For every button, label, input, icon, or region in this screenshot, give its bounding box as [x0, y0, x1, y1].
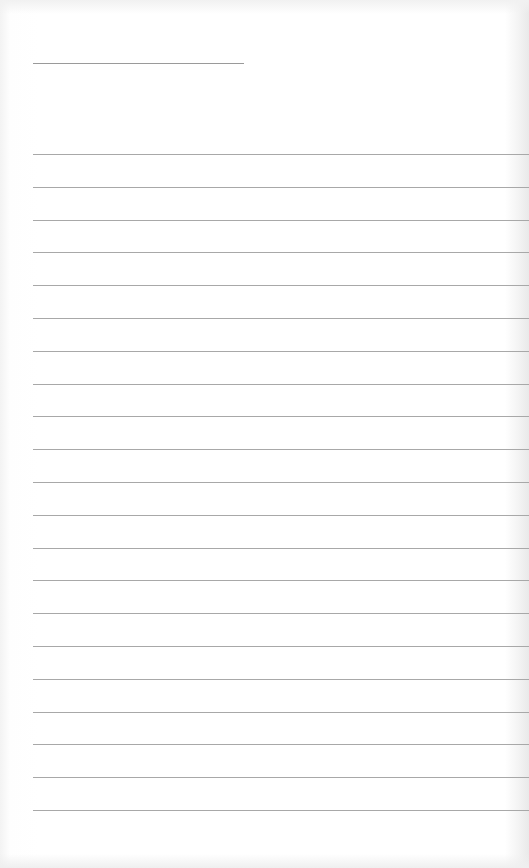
- ruled-line: [33, 613, 529, 614]
- ruled-line: [33, 351, 529, 352]
- ruled-line: [33, 482, 529, 483]
- lined-paper-page: [0, 0, 529, 868]
- ruled-line: [33, 744, 529, 745]
- name-line: [33, 63, 244, 64]
- ruled-line: [33, 712, 529, 713]
- ruled-line: [33, 449, 529, 450]
- ruled-line: [33, 416, 529, 417]
- ruled-line: [33, 220, 529, 221]
- ruled-line: [33, 384, 529, 385]
- ruled-line: [33, 777, 529, 778]
- ruled-line: [33, 679, 529, 680]
- ruled-line: [33, 515, 529, 516]
- ruled-line: [33, 646, 529, 647]
- ruled-line: [33, 810, 529, 811]
- ruled-line: [33, 318, 529, 319]
- ruled-line: [33, 580, 529, 581]
- ruled-line: [33, 187, 529, 188]
- ruled-line: [33, 154, 529, 155]
- ruled-line: [33, 285, 529, 286]
- ruled-line: [33, 252, 529, 253]
- ruled-line: [33, 548, 529, 549]
